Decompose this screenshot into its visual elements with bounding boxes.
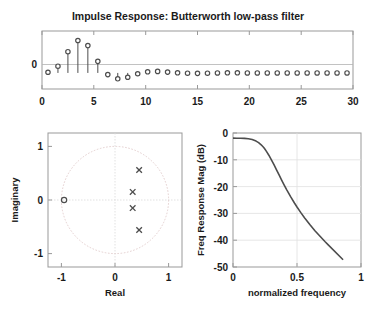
freq-xtick-0: 0 <box>230 272 236 283</box>
polezero-xtick-neg1: -1 <box>57 272 66 283</box>
freq-xaxis-label: normalized frequency <box>248 287 347 298</box>
polezero-yaxis-label: Imaginary <box>9 177 20 223</box>
polezero-xaxis-label: Real <box>105 287 125 298</box>
impulse-xtick-4: 20 <box>244 96 256 107</box>
impulse-xtick-6: 30 <box>347 96 359 107</box>
impulse-xtick-1: 5 <box>91 96 97 107</box>
polezero-ytick-1: 1 <box>37 141 43 152</box>
freq-xtick-half: 0.5 <box>290 272 304 283</box>
polezero-ytick-0: 0 <box>37 195 43 206</box>
polezero-xtick-0: 0 <box>112 272 118 283</box>
freq-ytick-neg30: -30 <box>214 208 229 219</box>
impulse-ytick-0: 0 <box>31 59 37 70</box>
freq-xtick-1: 1 <box>358 272 364 283</box>
impulse-xtick-5: 25 <box>296 96 308 107</box>
freq-yaxis-label: Freq Response Mag (dB) <box>195 144 206 256</box>
freq-ytick-neg50: -50 <box>214 262 229 273</box>
freq-ytick-neg40: -40 <box>214 235 229 246</box>
freq-ytick-neg10: -10 <box>214 155 229 166</box>
impulse-xtick-3: 15 <box>192 96 204 107</box>
polezero-xtick-1: 1 <box>166 272 172 283</box>
impulse-xtick-0: 0 <box>39 96 45 107</box>
polezero-ytick-neg1: -1 <box>34 248 43 259</box>
impulse-response-title: Impulse Response: Butterworth low-pass f… <box>72 10 304 22</box>
matlab-figure-window: Impulse Response: Butterworth low-pass f… <box>0 0 377 326</box>
freq-ytick-0: 0 <box>222 128 228 139</box>
impulse-xtick-2: 10 <box>140 96 152 107</box>
freq-ytick-neg20: -20 <box>214 182 229 193</box>
figure-canvas: Impulse Response: Butterworth low-pass f… <box>0 0 377 326</box>
